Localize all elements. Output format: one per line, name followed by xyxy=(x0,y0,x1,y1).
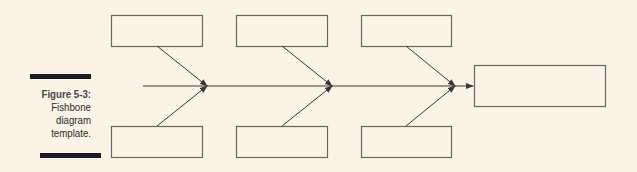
bone-top-3 xyxy=(406,46,455,86)
cause-box-top-3 xyxy=(362,16,452,47)
cause-box-top-1 xyxy=(112,16,203,47)
cause-box-bottom-2 xyxy=(237,127,328,158)
cause-box-top-2 xyxy=(237,16,328,47)
bone-bottom-2 xyxy=(282,86,332,126)
effect-box xyxy=(475,66,606,107)
fishbone-diagram xyxy=(0,0,637,172)
bone-top-2 xyxy=(282,46,332,86)
bone-bottom-1 xyxy=(157,86,207,126)
bone-top-1 xyxy=(157,46,207,86)
cause-box-bottom-1 xyxy=(112,127,203,158)
bone-bottom-3 xyxy=(406,86,455,126)
cause-box-bottom-3 xyxy=(362,127,452,158)
